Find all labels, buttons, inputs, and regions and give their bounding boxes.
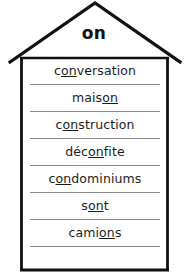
- word-list: conversation maison construction déconfi…: [22, 58, 168, 270]
- word-suffix: fite: [104, 144, 125, 159]
- list-item: construction: [22, 112, 168, 139]
- word-prefix: c: [49, 171, 56, 186]
- word-prefix: mais: [72, 90, 102, 105]
- word-entry: camions: [69, 226, 122, 240]
- word-prefix: s: [81, 198, 88, 213]
- word-entry: construction: [56, 118, 135, 132]
- word-highlight: on: [102, 90, 118, 105]
- word-highlight: on: [99, 225, 115, 240]
- word-suffix: struction: [78, 117, 134, 132]
- word-prefix: c: [54, 63, 61, 78]
- word-suffix: s: [115, 225, 122, 240]
- word-suffix: t: [104, 198, 109, 213]
- word-entry: maison: [72, 91, 118, 105]
- word-highlight: on: [88, 144, 104, 159]
- list-item: déconfite: [22, 139, 168, 166]
- word-highlight: on: [88, 198, 104, 213]
- list-item: condominiums: [22, 166, 168, 193]
- list-item: camions: [22, 220, 168, 247]
- word-suffix: versation: [77, 63, 136, 78]
- word-highlight: on: [56, 171, 72, 186]
- list-item: conversation: [22, 58, 168, 85]
- word-entry: sont: [81, 199, 108, 213]
- word-entry: conversation: [54, 64, 136, 78]
- word-entry: déconfite: [65, 145, 124, 159]
- row-rule: [30, 246, 160, 247]
- list-item: maison: [22, 85, 168, 112]
- list-item: sont: [22, 193, 168, 220]
- worksheet-house-graphic: on conversation maison construction déco…: [0, 0, 188, 278]
- word-prefix: c: [56, 117, 63, 132]
- word-highlight: on: [61, 63, 77, 78]
- word-prefix: cami: [69, 225, 100, 240]
- word-prefix: déc: [65, 144, 88, 159]
- word-entry: condominiums: [49, 172, 142, 186]
- page-title: on: [0, 23, 188, 43]
- word-suffix: dominiums: [71, 171, 141, 186]
- word-highlight: on: [63, 117, 79, 132]
